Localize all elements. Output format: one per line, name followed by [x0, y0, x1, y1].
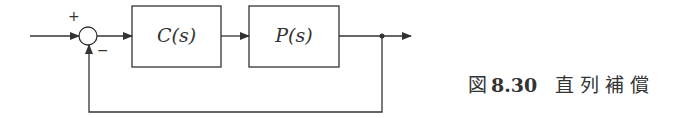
figure-caption: 図8.30直列補償 — [468, 70, 655, 97]
figure-title: 直列補償 — [555, 74, 655, 96]
summing-junction — [79, 27, 97, 45]
controller-label: C(s) — [132, 24, 221, 46]
caption-prefix: 図 — [468, 74, 487, 96]
plus-sign: + — [68, 8, 80, 24]
figure-number: 8.30 — [491, 74, 537, 96]
feedback-path — [89, 36, 382, 112]
minus-sign: − — [97, 42, 109, 58]
block-diagram — [0, 0, 682, 118]
plant-label: P(s) — [249, 24, 339, 46]
branch-point — [380, 34, 385, 39]
